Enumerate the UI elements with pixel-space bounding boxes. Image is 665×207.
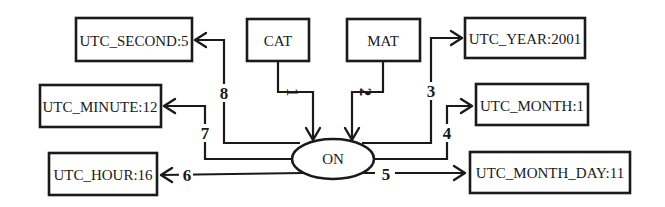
node-utc-minute: UTC_MINUTE:12 (40, 85, 161, 127)
node-utc-month-day-label: UTC_MONTH_DAY:11 (476, 165, 624, 181)
edge-label-4: 4 (443, 124, 452, 143)
node-utc-month: UTC_MONTH:1 (476, 84, 588, 125)
edge-label-5: 5 (382, 165, 391, 184)
edge-label-6: 6 (183, 166, 192, 185)
node-on-label: ON (322, 151, 344, 167)
node-utc-hour: UTC_HOUR:16 (49, 153, 157, 195)
node-utc-year: UTC_YEAR:2001 (465, 18, 585, 58)
node-utc-month-day: UTC_MONTH_DAY:11 (470, 152, 630, 193)
node-utc-second: UTC_SECOND:5 (76, 18, 192, 61)
edge-label-1: 1 (283, 88, 302, 97)
node-mat: MAT (347, 19, 420, 61)
edge-label-7: 7 (201, 124, 210, 143)
node-mat-label: MAT (367, 33, 399, 49)
edge-1: 1 (278, 61, 320, 140)
edge-label-2: 2 (356, 88, 375, 97)
node-cat: CAT (247, 19, 309, 61)
edge-7: 7 (164, 99, 292, 159)
edge-2: 2 (345, 61, 383, 140)
diagram-canvas: 8 7 6 1 2 3 4 (0, 0, 665, 207)
edge-4: 4 (374, 99, 472, 159)
node-on: ON (292, 139, 374, 179)
node-utc-minute-label: UTC_MINUTE:12 (43, 99, 158, 115)
node-utc-hour-label: UTC_HOUR:16 (53, 167, 153, 183)
edge-label-3: 3 (427, 82, 436, 101)
node-cat-label: CAT (264, 33, 292, 49)
node-utc-second-label: UTC_SECOND:5 (79, 33, 188, 49)
edge-label-8: 8 (220, 84, 229, 103)
node-utc-year-label: UTC_YEAR:2001 (469, 31, 582, 47)
edge-6: 6 (161, 166, 303, 185)
node-utc-month-label: UTC_MONTH:1 (480, 98, 584, 114)
edge-5: 5 (360, 164, 465, 184)
